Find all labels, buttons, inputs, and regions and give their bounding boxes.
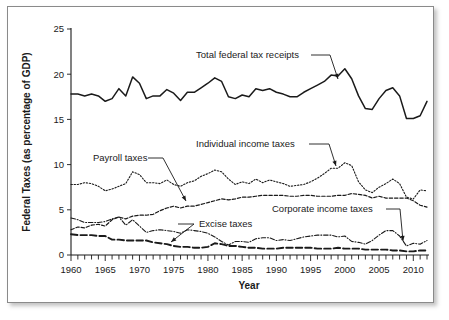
annotation-arrowhead [182, 195, 186, 201]
y-tick-label: 0 [59, 249, 64, 260]
y-tick-label: 15 [53, 114, 64, 125]
series-line-excise-taxes [71, 234, 427, 251]
x-tick-label: 1995 [300, 264, 321, 275]
x-axis-title: Year [238, 280, 259, 291]
annotation-label-individual-income-taxes: Individual income taxes [196, 138, 295, 149]
annotation-leader [386, 209, 403, 241]
y-tick-label: 25 [53, 23, 64, 34]
x-tick-label: 1960 [60, 264, 81, 275]
figure-container: 0510152025196019651970197519801985199019… [0, 0, 449, 320]
annotation-label-corporate-income-taxes: Corporate income taxes [272, 203, 373, 214]
annotation-leader [309, 144, 336, 166]
tax-receipts-line-chart: 0510152025196019651970197519801985199019… [0, 0, 449, 320]
annotation-arrowhead [332, 160, 336, 166]
annotation-label-excise-taxes: Excise taxes [199, 218, 253, 229]
series-line-individual-income-taxes [71, 163, 427, 199]
y-tick-label: 5 [59, 204, 64, 215]
x-tick-label: 1975 [163, 264, 184, 275]
x-tick-label: 1990 [266, 264, 287, 275]
x-tick-label: 1980 [197, 264, 218, 275]
annotation-label-payroll-taxes: Payroll taxes [93, 152, 148, 163]
x-tick-label: 2000 [334, 264, 355, 275]
y-tick-label: 20 [53, 69, 64, 80]
y-tick-label: 10 [53, 159, 64, 170]
series-line-total-federal-tax-receipts [71, 69, 427, 119]
annotation-label-total-federal-tax-receipts: Total federal tax receipts [196, 49, 299, 60]
x-tick-label: 1985 [232, 264, 253, 275]
x-tick-label: 2005 [369, 264, 390, 275]
x-tick-label: 2010 [403, 264, 424, 275]
x-tick-label: 1970 [129, 264, 150, 275]
annotation-leader [148, 158, 186, 201]
x-tick-label: 1965 [95, 264, 116, 275]
y-axis-title: Federal Taxes (as percentage of GDP) [21, 52, 32, 231]
